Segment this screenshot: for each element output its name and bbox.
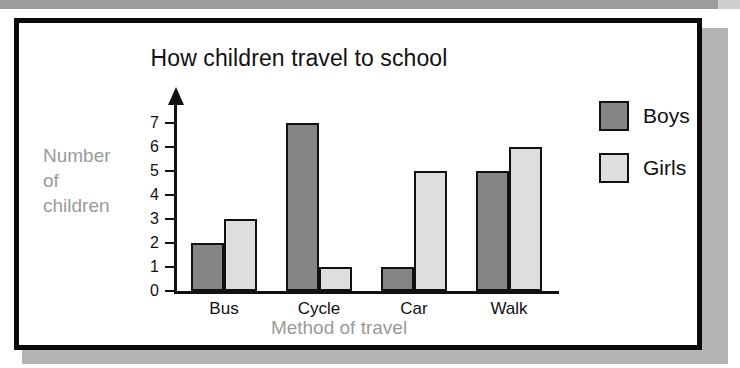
bar-cycle-girls: [319, 267, 352, 291]
page-top-gray-strip-edge: [718, 0, 740, 9]
chart-panel: How children travel to school Number of …: [14, 18, 702, 350]
legend-item-boys: Boys: [599, 101, 690, 131]
x-axis-label: Method of travel: [194, 317, 484, 339]
legend-label-girls: Girls: [643, 156, 686, 180]
bar-cycle-boys: [286, 123, 319, 291]
bar-walk-girls: [509, 147, 542, 291]
legend-item-girls: Girls: [599, 153, 690, 183]
legend-label-boys: Boys: [643, 104, 690, 128]
bars-baseline: [19, 23, 697, 291]
bar-bus-girls: [224, 219, 257, 291]
x-axis-label-bus: Bus: [177, 299, 271, 319]
plot-surface: How children travel to school Number of …: [19, 23, 697, 345]
page-top-gray-strip: [0, 0, 718, 9]
scanned-page: How children travel to school Number of …: [0, 0, 740, 368]
chart-legend: Boys Girls: [599, 101, 690, 205]
bar-bus-boys: [191, 243, 224, 291]
bar-car-boys: [381, 267, 414, 291]
x-axis-label-car: Car: [367, 299, 461, 319]
bar-walk-boys: [476, 171, 509, 291]
x-axis-label-walk: Walk: [462, 299, 556, 319]
x-axis-label-cycle: Cycle: [272, 299, 366, 319]
bar-car-girls: [414, 171, 447, 291]
legend-swatch-boys: [599, 101, 629, 131]
bars-layer: [19, 23, 697, 345]
legend-swatch-girls: [599, 153, 629, 183]
